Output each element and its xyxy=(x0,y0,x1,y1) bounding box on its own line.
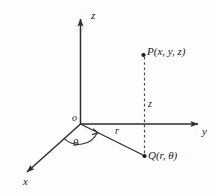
x-axis-label: x xyxy=(23,176,28,187)
y-axis-label: y xyxy=(202,126,207,137)
origin-label: o xyxy=(72,113,77,123)
point-p-label: P(x, y, z) xyxy=(147,46,185,57)
height-label: z xyxy=(148,99,152,109)
x-axis-line xyxy=(27,124,81,172)
diagram-canvas xyxy=(0,0,216,193)
radius-segment xyxy=(81,124,144,155)
point-p-dot xyxy=(141,53,145,57)
point-q-label: Q(r, θ) xyxy=(148,150,177,161)
cylindrical-coordinate-diagram: z y x o P(x, y, z) Q(r, θ) r z θ xyxy=(0,0,216,193)
theta-label: θ xyxy=(73,137,78,148)
point-q-dot xyxy=(142,154,146,158)
z-axis-label: z xyxy=(91,10,95,21)
radius-label: r xyxy=(115,126,119,136)
